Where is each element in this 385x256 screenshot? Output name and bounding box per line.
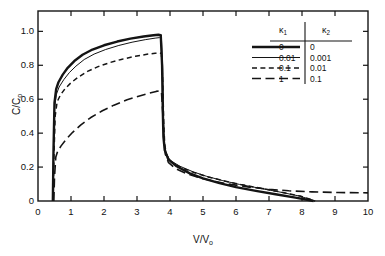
legend-header-kappa2: κ2 — [322, 25, 330, 35]
y-tick-label: 0.8 — [2, 59, 34, 70]
breakthrough-curve-plot — [0, 0, 385, 256]
y-axis-title: C/Co — [11, 85, 22, 125]
x-tick-label: 3 — [122, 206, 152, 217]
x-tick-label: 10 — [353, 206, 383, 217]
legend-value-kappa2: 0 — [310, 42, 315, 52]
y-tick-label: 0.4 — [2, 127, 34, 138]
plot-frame — [38, 11, 368, 201]
x-tick-label: 8 — [287, 206, 317, 217]
curve-long-dash — [54, 91, 368, 201]
curve-short-dash — [53, 53, 315, 201]
axis-ticks — [38, 11, 368, 201]
legend-value-kappa1: 1 — [279, 74, 284, 84]
legend-value-kappa2: 0.001 — [310, 53, 331, 63]
x-tick-label: 4 — [155, 206, 185, 217]
legend-value-kappa1: 0.1 — [279, 63, 291, 73]
chart-figure: C/Co V/Vo 1.00.80.60.40.20 012345678910 … — [0, 0, 385, 256]
x-tick-label: 9 — [320, 206, 350, 217]
legend-value-kappa2: 0.1 — [310, 74, 322, 84]
y-tick-label: 0.6 — [2, 93, 34, 104]
legend-value-kappa1: 0 — [279, 42, 284, 52]
x-tick-label: 2 — [89, 206, 119, 217]
y-tick-label: 0 — [2, 195, 34, 206]
curve-thick-solid — [53, 35, 314, 201]
y-tick-label: 0.2 — [2, 161, 34, 172]
y-tick-label: 1.0 — [2, 25, 34, 36]
legend-header-kappa1: κ1 — [279, 25, 287, 35]
legend-value-kappa2: 0.01 — [310, 63, 327, 73]
x-tick-label: 1 — [56, 206, 86, 217]
curve-thin-solid — [53, 38, 315, 201]
legend-value-kappa1: 0.01 — [279, 53, 296, 63]
x-tick-label: 7 — [254, 206, 284, 217]
x-tick-label: 0 — [23, 206, 53, 217]
x-tick-label: 5 — [188, 206, 218, 217]
x-axis-title: V/Vo — [183, 234, 223, 245]
x-tick-label: 6 — [221, 206, 251, 217]
